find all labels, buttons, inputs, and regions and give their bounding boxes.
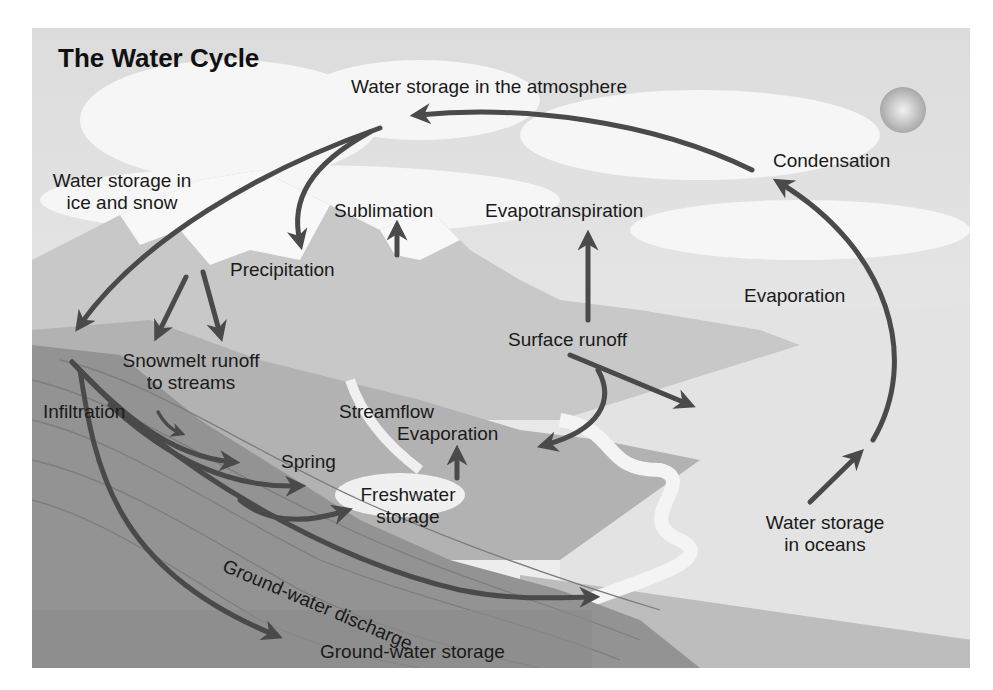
label-ice-snow-line2: ice and snow <box>38 192 206 214</box>
label-evaporation-ocean: Evaporation <box>744 285 845 307</box>
label-infiltration: Infiltration <box>43 401 125 423</box>
label-streamflow: Streamflow <box>339 401 434 423</box>
label-ocean-line2: in oceans <box>750 534 900 556</box>
diagram-illustration <box>0 0 993 690</box>
label-sublimation: Sublimation <box>334 200 433 222</box>
label-snowmelt: Snowmelt runoff to streams <box>106 350 276 394</box>
label-freshwater-line1: Freshwater <box>352 484 464 506</box>
label-freshwater-line2: storage <box>352 506 464 528</box>
sun-icon <box>880 87 926 133</box>
label-ice-snow: Water storage in ice and snow <box>38 170 206 214</box>
label-evaporation-freshwater: Evaporation <box>397 423 498 445</box>
label-groundwater-storage: Ground-water storage <box>320 641 505 663</box>
label-snowmelt-line2: to streams <box>106 372 276 394</box>
diagram-title: The Water Cycle <box>58 43 259 74</box>
label-condensation: Condensation <box>773 150 890 172</box>
label-ocean-storage: Water storage in oceans <box>750 512 900 556</box>
label-atmosphere: Water storage in the atmosphere <box>351 76 627 98</box>
water-cycle-diagram: The Water Cycle Water storage in the atm… <box>0 0 993 690</box>
label-surface-runoff: Surface runoff <box>508 329 627 351</box>
label-snowmelt-line1: Snowmelt runoff <box>106 350 276 372</box>
label-spring: Spring <box>281 451 336 473</box>
label-ocean-line1: Water storage <box>750 512 900 534</box>
label-ice-snow-line1: Water storage in <box>38 170 206 192</box>
label-precipitation: Precipitation <box>230 259 335 281</box>
label-evapotranspiration: Evapotranspiration <box>485 200 643 222</box>
label-freshwater-storage: Freshwater storage <box>352 484 464 528</box>
